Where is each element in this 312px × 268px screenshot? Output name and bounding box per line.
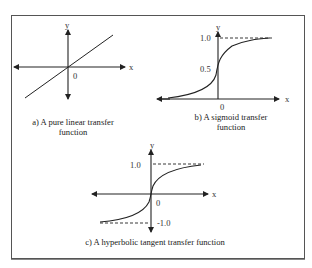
y-axis-label: y xyxy=(65,20,70,30)
caption-line: a) A pure linear transfer xyxy=(14,117,132,127)
tick-label-0-5: 0.5 xyxy=(200,64,211,74)
origin-label: 0 xyxy=(73,71,77,81)
y-axis-label: y xyxy=(150,140,155,150)
tick-label-1: 1.0 xyxy=(130,160,141,170)
caption-line: b) A sigmoid transfer xyxy=(176,112,286,122)
tick-label-1: 1.0 xyxy=(200,33,211,43)
caption-sigmoid: b) A sigmoid transfer function xyxy=(176,112,286,132)
x-axis-label: x xyxy=(285,94,290,104)
origin-label: 0 xyxy=(156,198,160,208)
caption-line: function xyxy=(176,122,286,132)
sigmoid-curve xyxy=(168,38,270,98)
x-axis-label: x xyxy=(129,62,134,72)
panel-tanh: y x 0 1.0 -1.0 xyxy=(92,140,217,232)
origin-label: 0 xyxy=(220,102,224,112)
tick-label-neg-1: -1.0 xyxy=(157,218,170,228)
panel-linear: y x 0 xyxy=(14,20,134,99)
caption-line: function xyxy=(14,127,132,137)
panel-sigmoid: y x 0 1.0 0.5 xyxy=(157,22,290,112)
x-axis-label: x xyxy=(212,189,217,199)
caption-linear: a) A pure linear transfer function xyxy=(14,117,132,137)
y-axis-label: y xyxy=(216,22,221,32)
caption-tanh: c) A hyperbolic tangent transfer functio… xyxy=(60,237,250,247)
